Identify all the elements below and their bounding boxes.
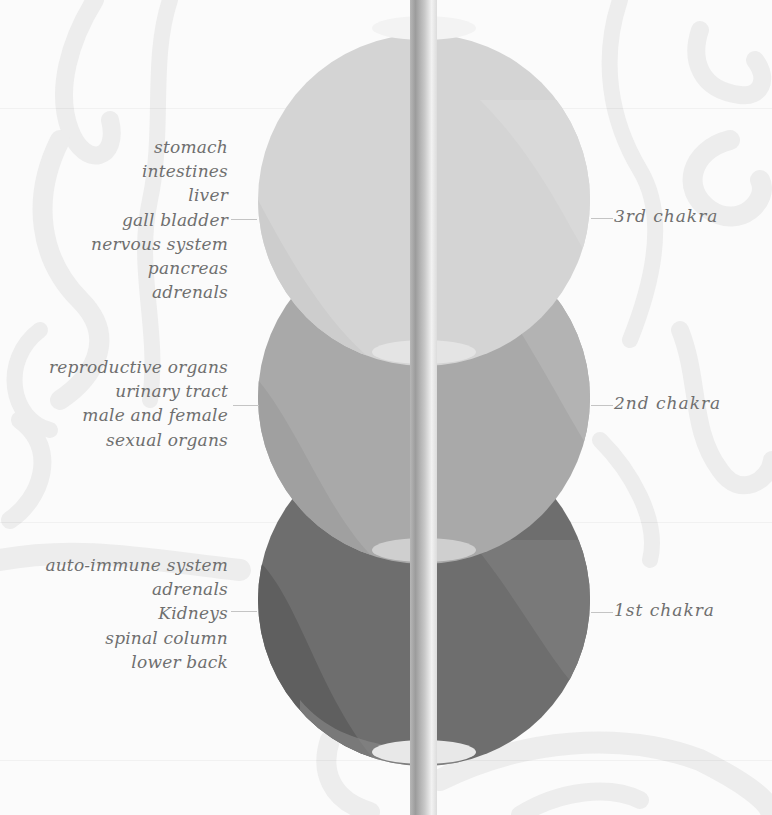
organ-label: sexual organs — [49, 428, 228, 452]
chakra-1-label: 1st chakra — [614, 600, 715, 620]
leader-line-right-2 — [591, 405, 613, 406]
chakra-diagram: stomach intestines liver gall bladder ne… — [0, 0, 772, 815]
organ-label: spinal column — [45, 626, 228, 650]
chakra-3-label: 3rd chakra — [614, 206, 718, 226]
organ-label: stomach — [91, 135, 228, 159]
organ-label: male and female — [49, 403, 228, 427]
organ-label: pancreas — [91, 256, 228, 280]
organ-label: lower back — [45, 650, 228, 674]
leader-line-left-3 — [231, 219, 257, 220]
central-spine — [410, 0, 437, 815]
organ-label: urinary tract — [49, 379, 228, 403]
organ-label: gall bladder — [91, 208, 228, 232]
leader-line-left-1 — [231, 611, 257, 612]
organ-label: liver — [91, 183, 228, 207]
leader-line-right-1 — [591, 612, 613, 613]
organ-label: adrenals — [91, 280, 228, 304]
leader-line-right-3 — [591, 218, 613, 219]
leader-line-left-2 — [233, 405, 259, 406]
chakra-2-label: 2nd chakra — [614, 393, 721, 413]
organ-label: Kidneys — [45, 601, 228, 625]
organ-label: reproductive organs — [49, 355, 228, 379]
organ-label: auto-immune system — [45, 553, 228, 577]
chakra-2-organ-list: reproductive organs urinary tract male a… — [49, 355, 228, 452]
organ-label: adrenals — [45, 577, 228, 601]
chakra-3-organ-list: stomach intestines liver gall bladder ne… — [91, 135, 228, 304]
organ-label: intestines — [91, 159, 228, 183]
organ-label: nervous system — [91, 232, 228, 256]
chakra-1-organ-list: auto-immune system adrenals Kidneys spin… — [45, 553, 228, 674]
